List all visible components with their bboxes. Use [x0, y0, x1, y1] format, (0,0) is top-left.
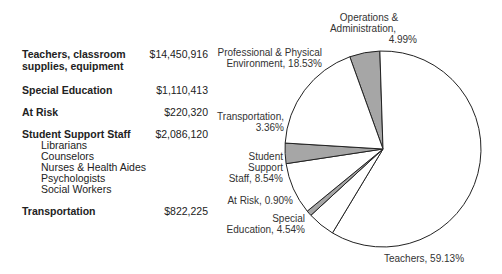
label-sss: Student [249, 151, 284, 162]
label-sped: Education, 4.54% [227, 224, 305, 235]
label-sss: Support [248, 162, 283, 173]
label-prof: Environment, 18.53% [226, 58, 322, 69]
pie-chart: Operations & Administration, 4.99% Profe… [0, 0, 502, 274]
label-ops: Administration, [330, 23, 396, 34]
pie-slices [285, 51, 481, 247]
label-prof: Professional & Physical [218, 47, 323, 58]
label-ops: Operations & [340, 12, 399, 23]
label-teachers: Teachers, 59.13% [384, 253, 464, 264]
label-ops: 4.99% [389, 34, 417, 45]
label-sped: Special [272, 213, 305, 224]
label-at-risk: At Risk, 0.90% [227, 195, 293, 206]
label-trans: Transportation, [217, 111, 284, 122]
label-trans: 3.36% [256, 122, 284, 133]
label-sss: Staff, 8.54% [229, 173, 283, 184]
